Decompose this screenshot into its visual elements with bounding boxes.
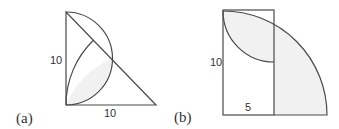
figure-a-label-horizontal: 10: [104, 107, 116, 119]
diagram-canvas: 10 10 (a) 10 5 (b): [0, 0, 339, 129]
figure-a-label-vertical: 10: [50, 54, 62, 66]
figure-a: 10 10 (a): [16, 12, 156, 127]
figure-b-label-vertical: 10: [210, 56, 222, 68]
figure-b-label-horizontal: 5: [245, 101, 251, 113]
figure-b: 10 5 (b): [174, 10, 327, 126]
figure-b-shaded-outer: [274, 23, 327, 115]
figure-a-caption: (a): [16, 110, 33, 127]
figure-a-shaded-region: [66, 59, 111, 105]
figure-b-shaded-inner: [223, 11, 274, 62]
figure-b-caption: (b): [174, 109, 192, 126]
